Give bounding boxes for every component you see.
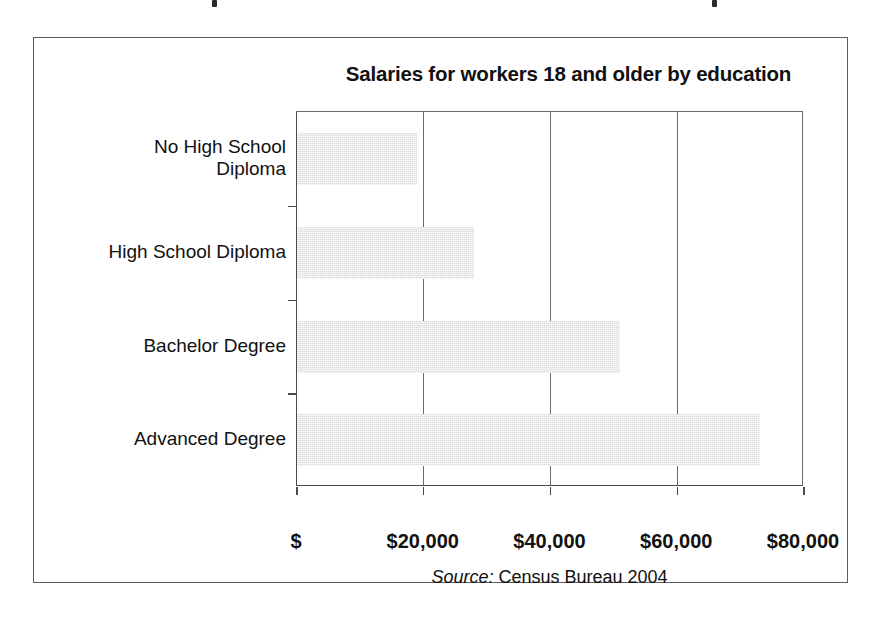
scan-artifact-mark: [712, 0, 717, 7]
figure-frame: Salaries for workers 18 and older by edu…: [33, 37, 848, 583]
category-label: Bachelor Degree: [26, 335, 286, 356]
bar-row: [297, 206, 802, 300]
category-axis-labels: No High SchoolDiplomaHigh School Diploma…: [24, 111, 286, 486]
source-note: Source: Census Bureau 2004: [296, 567, 803, 588]
category-label: Advanced Degree: [26, 428, 286, 449]
source-label: Source:: [431, 567, 493, 587]
y-axis-tick: [288, 206, 297, 208]
y-axis-tick: [288, 300, 297, 302]
scan-artifact-strip: [0, 0, 879, 12]
bar-row: [297, 300, 802, 394]
x-axis-tick-label: $: [290, 530, 301, 553]
x-axis-tick: [296, 487, 297, 495]
x-axis-tick-label: $20,000: [387, 530, 459, 553]
x-axis-tick-label: $80,000: [767, 530, 839, 553]
x-axis-tick: [677, 487, 678, 495]
chart-title: Salaries for workers 18 and older by edu…: [296, 62, 841, 86]
category-label: No High SchoolDiploma: [26, 136, 286, 179]
bar-row: [297, 112, 802, 206]
x-axis-tick-label: $60,000: [640, 530, 712, 553]
x-axis-tick: [550, 487, 551, 495]
plot-area: [296, 111, 803, 486]
category-label-line: Diploma: [26, 158, 286, 179]
bar[interactable]: [297, 321, 620, 373]
category-label-line: No High School: [26, 136, 286, 157]
bar[interactable]: [297, 133, 417, 185]
x-axis-tick-labels: $$20,000$40,000$60,000$80,000: [296, 530, 803, 560]
bar[interactable]: [297, 227, 474, 279]
category-label-line: Advanced Degree: [26, 428, 286, 449]
category-label-line: High School Diploma: [26, 241, 286, 262]
bar-row: [297, 393, 802, 487]
bar[interactable]: [297, 414, 760, 466]
x-axis-tick-label: $40,000: [513, 530, 585, 553]
category-label-line: Bachelor Degree: [26, 335, 286, 356]
x-axis-tick: [423, 487, 424, 495]
scan-artifact-mark: [212, 0, 217, 7]
category-label: High School Diploma: [26, 241, 286, 262]
x-axis-tick: [803, 487, 804, 495]
y-axis-tick: [288, 393, 297, 395]
source-text: Census Bureau 2004: [498, 567, 667, 587]
